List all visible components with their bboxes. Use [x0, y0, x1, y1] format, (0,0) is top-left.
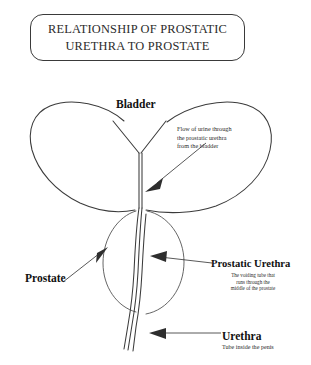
caption-prostatic-urethra: The voiding tube that runs through the m…: [210, 272, 296, 292]
caption-flow: Flow of urine through the prostatic uret…: [177, 125, 231, 151]
urethra-leader-arrow: [149, 328, 221, 339]
prostatic-urethra-channel: [124, 208, 146, 351]
label-prostatic-urethra: Prostatic Urethra: [211, 258, 290, 269]
prostatic-urethra-leader-arrow: [150, 251, 212, 263]
caption-pu-line-1: The voiding tube that: [210, 272, 296, 279]
caption-pu-line-3: middle of the prostate: [210, 285, 296, 292]
bladder-outline: [30, 102, 271, 213]
caption-urethra-line-1: Tube inside the penis: [222, 343, 274, 351]
prostate-left-lobe: [103, 211, 136, 312]
anatomy-illustration: [0, 0, 311, 365]
ureters-y-junction: [113, 121, 166, 153]
label-prostate: Prostate: [25, 272, 66, 284]
caption-urethra: Tube inside the penis: [222, 343, 274, 351]
caption-flow-line-2: the prostatic urethra: [177, 134, 231, 143]
label-bladder: Bladder: [116, 98, 156, 110]
caption-pu-line-2: runs through the: [210, 279, 296, 286]
prostate-right-lobe: [146, 211, 184, 314]
label-urethra: Urethra: [222, 330, 261, 342]
caption-flow-line-3: from the bladder: [177, 142, 231, 151]
prostate-leader-arrow: [63, 247, 108, 282]
anatomical-diagram: RELATIONSHIP OF PROSTATIC URETHRA TO PRO…: [0, 0, 311, 365]
caption-flow-line-1: Flow of urine through: [177, 125, 231, 134]
